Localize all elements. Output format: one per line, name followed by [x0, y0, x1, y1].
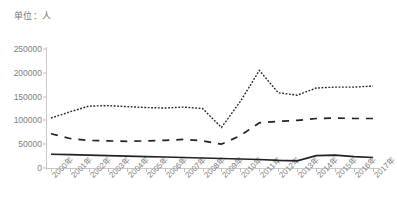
y-tick-label: 250000	[0, 44, 42, 54]
y-tick-label: 200000	[0, 68, 42, 78]
series-dashed-middle	[51, 118, 373, 144]
y-tick-label: 100000	[0, 115, 42, 125]
y-tick-label: 50000	[0, 139, 42, 149]
y-tick-label: 0	[0, 163, 42, 173]
plot-area	[46, 49, 378, 168]
series-paths	[46, 49, 378, 168]
series-solid-bottom	[51, 154, 373, 161]
unit-label: 单位：人	[14, 9, 51, 22]
y-tick-label: 150000	[0, 92, 42, 102]
